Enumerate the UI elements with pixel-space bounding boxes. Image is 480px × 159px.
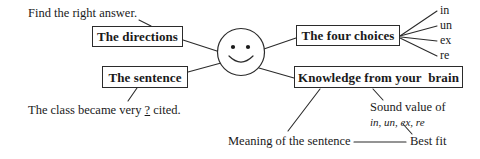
smiley-face-icon: [216, 27, 266, 77]
choice-label-un: un: [440, 19, 452, 31]
link-choice-un: [400, 26, 437, 36]
box-sentence[interactable]: The sentence: [102, 66, 188, 88]
sentence-suffix: cited.: [150, 103, 181, 117]
link-choice-in: [400, 11, 437, 36]
leader-sound-value: [373, 89, 383, 100]
box-four-choices[interactable]: The four choices: [296, 25, 400, 46]
choice-label-ex: ex: [440, 34, 451, 46]
instruction-text: Find the right answer.: [28, 7, 137, 21]
sentence-prefix: The class became very: [28, 103, 145, 117]
link-choice-ex: [401, 37, 437, 41]
link-choice-re: [400, 38, 437, 56]
annotation-sound-value: Sound value of: [370, 101, 446, 115]
link-face-choices: [261, 38, 296, 50]
leader-meaning: [288, 89, 320, 131]
choice-label-re: re: [440, 49, 449, 61]
box-directions[interactable]: The directions: [92, 26, 183, 47]
box-knowledge[interactable]: Knowledge from your brain: [294, 66, 463, 88]
link-directions-face: [183, 40, 220, 52]
choice-label-in: in: [440, 4, 449, 16]
diagram-canvas: Find the right answer. The class became …: [0, 0, 480, 159]
annotation-best-fit: Best fit: [410, 135, 446, 149]
annotation-sound-value-items: in, un, ex, re: [370, 117, 425, 128]
leader-sentence: [128, 88, 137, 101]
example-sentence: The class became very ? cited.: [28, 104, 181, 118]
annotation-meaning: Meaning of the sentence: [228, 135, 351, 149]
